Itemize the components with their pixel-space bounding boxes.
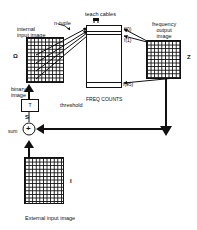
i-symbol: I — [70, 178, 72, 184]
n-tuple-label: n-tuple — [54, 20, 71, 26]
sum-label: sum — [8, 128, 17, 134]
omega-symbol: Ω — [13, 53, 18, 59]
teach-cable-connector — [93, 18, 99, 23]
external-input-image-grid — [24, 157, 64, 204]
counter-f95: f(95) — [123, 81, 133, 87]
threshold-box: T — [21, 99, 39, 112]
external-input-image-label: External input image — [25, 215, 75, 221]
z-symbol: Z — [187, 54, 191, 60]
binary-image-label: binary image — [11, 86, 26, 98]
frequency-output-image-grid — [146, 40, 181, 79]
counter-f1: f(1) — [124, 37, 132, 43]
counter-f0: f(0) — [124, 26, 132, 32]
frequency-output-image-label: frequency output image — [152, 21, 176, 39]
internal-input-image-label: internal input image — [17, 26, 45, 38]
internal-input-image-grid — [26, 37, 64, 83]
sum-symbol: S — [25, 114, 29, 120]
threshold-box-label: T — [22, 102, 38, 108]
freq-counts-label: FREQ COUNTS — [86, 96, 122, 102]
freq-counts-block — [86, 25, 122, 88]
threshold-label: threshold — [60, 102, 83, 108]
teach-cables-label: teach cables — [85, 11, 116, 17]
sum-operator: + — [26, 125, 31, 133]
